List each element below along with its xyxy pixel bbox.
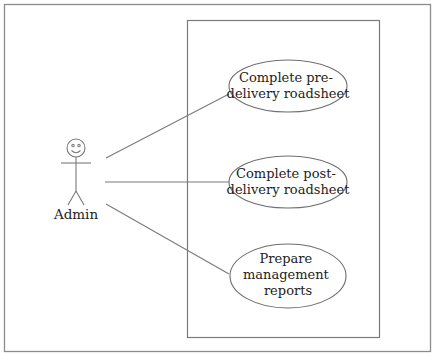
- use-case-label: Complete post- delivery roadsheet: [227, 166, 351, 197]
- use-case-label: Complete pre- delivery roadsheet: [227, 70, 351, 101]
- use-case-label-line: management: [243, 267, 330, 282]
- use-case-label-line: Prepare: [260, 251, 313, 266]
- actor-label: Admin: [53, 206, 99, 222]
- use-case-label-line: Complete post-: [236, 166, 336, 181]
- use-case-prepare-management-reports[interactable]: Prepare management reports: [230, 244, 346, 308]
- use-case-label-line: delivery roadsheet: [227, 182, 351, 197]
- use-case-label-line: reports: [264, 283, 312, 298]
- use-case-label-line: Complete pre-: [239, 70, 333, 85]
- use-case-label-line: delivery roadsheet: [227, 86, 351, 101]
- outer-frame: [5, 5, 431, 352]
- use-case-diagram: Admin Complete pre- delivery roadsheet C…: [0, 0, 434, 355]
